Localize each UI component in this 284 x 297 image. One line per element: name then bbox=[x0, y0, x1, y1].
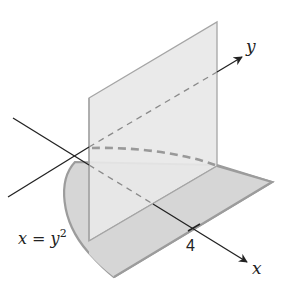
x-tick-label: 4 bbox=[186, 237, 195, 254]
x-axis-label: x bbox=[252, 258, 262, 278]
y-axis-arrow bbox=[217, 57, 242, 72]
curve-label-exponent: 2 bbox=[60, 227, 67, 240]
x-axis-negative bbox=[13, 118, 89, 165]
y-axis-label: y bbox=[245, 36, 256, 56]
curve-label-lhs: x = y bbox=[18, 229, 61, 248]
diagram-canvas: y x 4 x = y2 bbox=[0, 0, 284, 297]
curve-label: x = y2 bbox=[18, 227, 67, 248]
